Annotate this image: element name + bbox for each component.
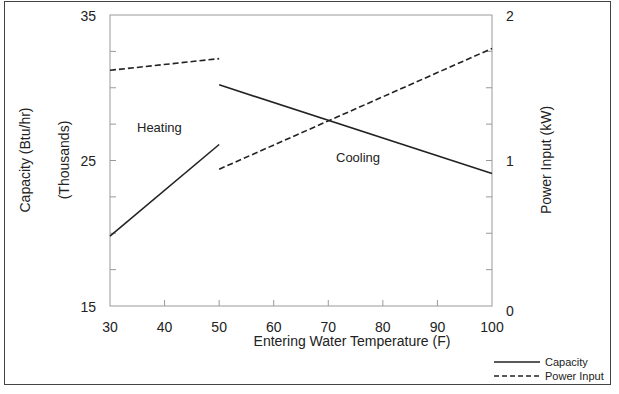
plot-area bbox=[110, 15, 492, 306]
y-left-tick-25: 25 bbox=[80, 153, 96, 169]
series-lines bbox=[110, 48, 492, 236]
annotation-heating: Heating bbox=[137, 120, 182, 135]
legend-power-label: Power Input bbox=[545, 370, 604, 382]
legend: Capacity Power Input bbox=[494, 356, 604, 382]
y-right-axis-title: Power Input (kW) bbox=[538, 106, 554, 214]
x-tick-label: 100 bbox=[480, 319, 504, 335]
annotation-cooling: Cooling bbox=[336, 150, 380, 165]
y-left-axis-subtitle: (Thousands) bbox=[56, 121, 72, 200]
y-right-tick-1: 1 bbox=[506, 153, 514, 169]
y-right-tick-0: 0 bbox=[506, 303, 514, 319]
x-tick-label: 30 bbox=[102, 319, 118, 335]
heating-capacity-line bbox=[110, 144, 219, 236]
heating-power-input-line bbox=[110, 59, 219, 71]
right-axis-ticks bbox=[486, 51, 492, 269]
y-left-tick-35: 35 bbox=[80, 8, 96, 24]
x-tick-label: 50 bbox=[211, 319, 227, 335]
chart-canvas: 30405060708090100 35 25 15 2 1 0 Enterin… bbox=[0, 0, 619, 394]
x-axis-title: Entering Water Temperature (F) bbox=[254, 333, 451, 349]
y-right-tick-2: 2 bbox=[506, 8, 514, 24]
y-left-tick-15: 15 bbox=[80, 299, 96, 315]
x-axis-ticks bbox=[165, 300, 438, 306]
left-axis-ticks bbox=[110, 51, 116, 269]
y-left-axis-title: Capacity (Btu/hr) bbox=[17, 107, 33, 212]
x-tick-label: 40 bbox=[157, 319, 173, 335]
legend-capacity-label: Capacity bbox=[545, 356, 588, 368]
